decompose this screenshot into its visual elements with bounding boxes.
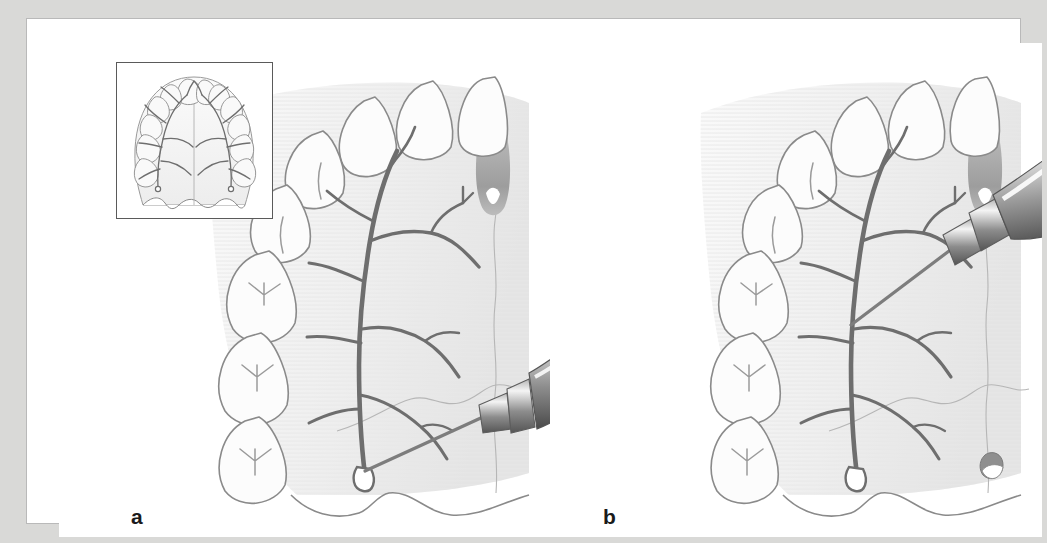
panel-b-illustration	[551, 43, 1042, 537]
figure-frame: a	[0, 0, 1047, 543]
contralateral-greater-palatine-foramen	[980, 453, 1003, 479]
inset-full-palate	[116, 62, 273, 219]
inset-illustration	[117, 63, 272, 218]
panel-b-label: b	[603, 505, 616, 529]
inset-foramen-right	[228, 186, 233, 191]
greater-palatine-foramen	[846, 467, 866, 491]
posterior-palate-border	[783, 493, 1021, 516]
inset-foramen-left	[155, 186, 160, 191]
panel-a: a	[59, 43, 550, 537]
posterior-palate-border	[291, 493, 529, 516]
figure-mat: a	[26, 18, 1021, 524]
panel-b: b	[551, 43, 1042, 537]
panel-a-label: a	[131, 505, 143, 529]
figure-canvas: a	[59, 43, 1042, 537]
